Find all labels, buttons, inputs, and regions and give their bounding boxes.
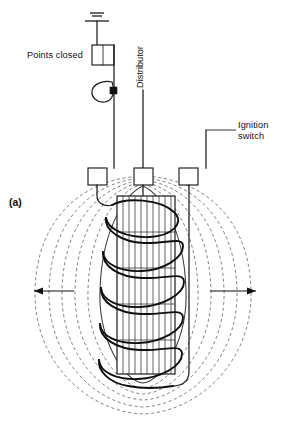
- coil-terminals: [88, 168, 198, 185]
- condenser-assembly: [92, 81, 117, 168]
- figure-id-label: (a): [9, 196, 22, 208]
- ignition-switch-label-line1: Ignition: [238, 120, 268, 130]
- center-terminal-box: [134, 168, 153, 185]
- condenser-terminal-block: [110, 87, 117, 94]
- left-terminal-box: [88, 168, 107, 185]
- ignition-coil-figure: Points closed Distributor Ignition switc…: [0, 0, 290, 434]
- ignition-switch-lead: [206, 130, 236, 168]
- points-closed-label: Points closed: [27, 50, 83, 60]
- ground-symbol: [85, 13, 109, 45]
- left-terminal-coil-wire: [97, 185, 112, 206]
- left-flux-arrow-head: [34, 288, 43, 295]
- coil-diagram-canvas: Points closed Distributor Ignition switc…: [0, 0, 290, 434]
- distributor-label: Distributor: [135, 46, 145, 88]
- ignition-switch-label-line2: switch: [238, 131, 264, 141]
- right-terminal-box: [179, 168, 198, 185]
- right-flux-arrow-head: [247, 288, 256, 295]
